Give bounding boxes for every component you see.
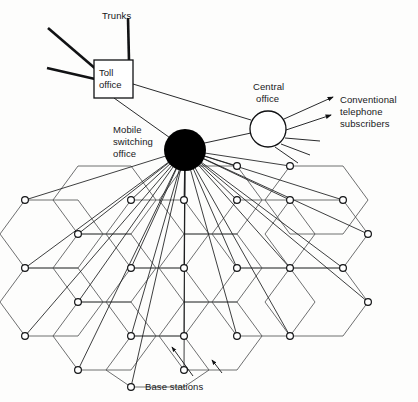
base-station-node[interactable] [75, 231, 82, 238]
toll-office[interactable]: Toll office [94, 60, 133, 98]
spoke-line [185, 150, 237, 336]
trunks-label: Trunks [102, 10, 131, 21]
base-station-node[interactable] [234, 163, 241, 170]
hex-cell [265, 268, 368, 336]
base-station-nodes [22, 163, 372, 391]
base-station-node[interactable] [340, 197, 347, 204]
mso-label-line2: switching [113, 136, 153, 147]
base-station-node[interactable] [181, 265, 188, 272]
subscriber-ray [281, 144, 310, 155]
base-station-node[interactable] [340, 265, 347, 272]
mso-spoke-lines [25, 150, 368, 387]
base-station-node[interactable] [128, 197, 135, 204]
base-station-node[interactable] [128, 384, 135, 391]
central-office-label-line2: office [256, 93, 279, 104]
base-station-node[interactable] [22, 333, 29, 340]
central-office-circle[interactable] [250, 111, 286, 147]
base-stations-label: Base stations [145, 381, 203, 392]
base-station-node[interactable] [287, 163, 294, 170]
spoke-line [185, 150, 368, 234]
toll-to-central-line [133, 84, 251, 120]
hex-cell [106, 336, 209, 387]
base-station-node[interactable] [181, 197, 188, 204]
mso-to-central-line [200, 133, 251, 144]
central-office[interactable]: Central office [250, 81, 286, 147]
base-station-node[interactable] [22, 197, 29, 204]
base-station-node[interactable] [75, 367, 82, 374]
spoke-line [78, 150, 185, 302]
diagram-canvas: Toll office Central office Conventional … [0, 0, 418, 402]
base-station-node[interactable] [128, 265, 135, 272]
base-station-node[interactable] [365, 299, 372, 306]
trunk-line [47, 68, 95, 79]
base-station-node[interactable] [75, 299, 82, 306]
cellular-network-diagram: Toll office Central office Conventional … [0, 0, 418, 402]
mobile-switching-office-disc[interactable] [164, 129, 206, 171]
subscriber-arrow-ray [286, 115, 331, 130]
base-station-node[interactable] [287, 197, 294, 204]
mobile-switching-office[interactable]: Mobile switching office [113, 124, 206, 171]
trunk-line [128, 18, 129, 61]
base-station-node[interactable] [234, 333, 241, 340]
base-station-node[interactable] [234, 265, 241, 272]
subscribers-label-line3: subscribers [340, 118, 390, 129]
subscribers-label-line2: telephone [340, 106, 383, 117]
base-station-leader-arrow [212, 360, 222, 373]
base-station-node[interactable] [128, 333, 135, 340]
spoke-line [25, 150, 185, 268]
mso-label-line1: Mobile [113, 124, 142, 135]
trunk-line [48, 28, 97, 70]
base-station-node[interactable] [181, 333, 188, 340]
subscribers-label-line1: Conventional [340, 94, 397, 105]
central-office-label-line1: Central [253, 81, 284, 92]
subscriber-arrow-ray [284, 97, 333, 119]
subscriber-ray [285, 138, 320, 141]
spoke-line [25, 150, 185, 200]
toll-office-label-line2: office [99, 79, 122, 90]
base-station-node[interactable] [287, 333, 294, 340]
spoke-line [185, 150, 368, 302]
base-station-node[interactable] [234, 197, 241, 204]
spoke-line [185, 150, 343, 268]
mso-label-line3: office [113, 148, 136, 159]
base-station-node[interactable] [22, 265, 29, 272]
base-station-node[interactable] [365, 231, 372, 238]
conventional-subscribers-label: Conventional telephone subscribers [340, 94, 397, 129]
spoke-line [25, 150, 185, 336]
toll-office-label-line1: Toll [99, 67, 113, 78]
base-station-node[interactable] [287, 265, 294, 272]
